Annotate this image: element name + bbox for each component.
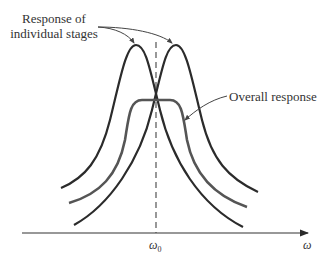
omega-subscript: 0 [157, 245, 161, 254]
individual-stages-label-line2: individual stages [10, 26, 98, 41]
overall-response-curve [69, 100, 247, 207]
callout-arrow-stage-2 [98, 27, 172, 43]
overall-response-label: Overall response [229, 89, 317, 104]
stage-1-response-curve [61, 45, 243, 227]
individual-stages-label: Response of individual stages [10, 11, 98, 41]
stage-2-response-curve [74, 45, 258, 225]
center-frequency-label: ω0 [149, 238, 161, 257]
callout-arrow-overall [185, 96, 227, 120]
callout-arrow-stage-1 [98, 27, 134, 43]
individual-stages-label-line1: Response of [10, 11, 98, 26]
x-axis-label: ω [303, 238, 311, 253]
